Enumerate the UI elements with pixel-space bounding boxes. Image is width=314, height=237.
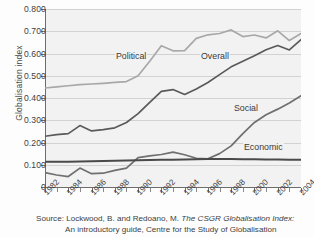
series-lines	[45, 9, 301, 187]
y-axis-title: Globalisation index	[14, 18, 24, 148]
y-tick-label: 0.500	[24, 71, 46, 81]
x-tick	[126, 188, 127, 192]
x-tick	[173, 188, 174, 192]
y-tick-label: 0.700	[24, 26, 46, 36]
source-prefix: Source:	[36, 214, 64, 223]
series-label-social: Social	[233, 103, 259, 113]
series-line-overall	[45, 40, 301, 137]
series-line-economic	[45, 159, 301, 162]
series-line-political	[45, 30, 301, 88]
x-tick	[80, 188, 81, 192]
source-line1-italic: The CSGR Globalisation Index:	[181, 214, 294, 223]
x-tick	[150, 188, 151, 192]
series-label-economic: Economic	[243, 142, 284, 152]
y-tick-label: 0.100	[24, 160, 46, 170]
source-line1-plain: Lockwood, B. and Redoano, M.	[66, 214, 181, 223]
series-line-social	[45, 96, 301, 177]
x-tick	[57, 188, 58, 192]
source-line2: An introductory guide, Centre for the St…	[65, 225, 310, 236]
x-tick	[266, 188, 267, 192]
globalisation-index-chart: Globalisation index 0.8000.7000.6000.500…	[0, 0, 314, 237]
y-tick-label: 0.400	[24, 93, 46, 103]
series-label-political: Political	[115, 51, 147, 61]
x-tick	[243, 188, 244, 192]
y-tick-label: 0.800	[24, 4, 46, 14]
y-tick-label: 0.200	[24, 138, 46, 148]
y-tick-label: 0.300	[24, 115, 46, 125]
series-label-overall: Overall	[200, 51, 230, 61]
source-note: Source: Lockwood, B. and Redoano, M. The…	[36, 214, 310, 235]
x-tick	[220, 188, 221, 192]
y-tick-label: 0.600	[24, 49, 46, 59]
